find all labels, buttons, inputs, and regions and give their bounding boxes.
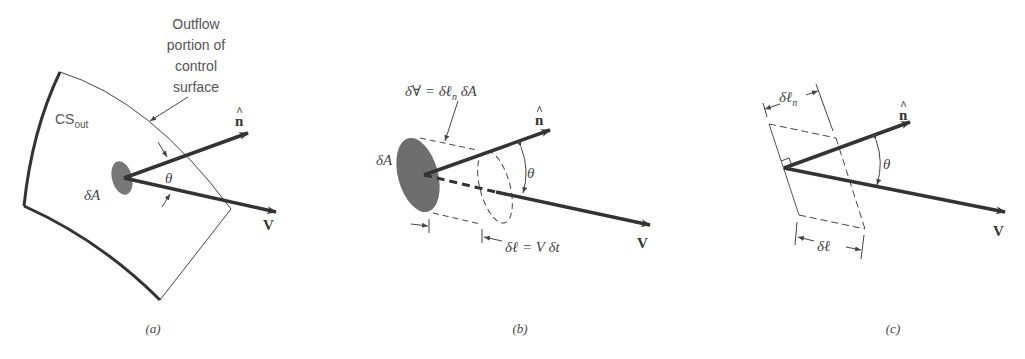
length-label: δℓ xyxy=(817,238,830,254)
volume-leader-line xyxy=(445,101,458,141)
length-equation-label: δℓ = V δt xyxy=(505,239,560,255)
angle-arc xyxy=(521,147,526,193)
angle-tick-bottom xyxy=(162,194,170,207)
angle-label: θ xyxy=(527,165,535,181)
dim-ext-bottom-left xyxy=(795,222,797,245)
dim-arrow-top-left xyxy=(765,104,780,109)
velocity-label: V xyxy=(993,223,1004,239)
panel-b: δ∀ = δℓn δA δA θ δℓ = V δt n ^ V (b) xyxy=(376,83,650,336)
callout-line-3: control xyxy=(175,58,217,74)
normal-hat: ^ xyxy=(536,103,543,117)
velocity-vector-arrow xyxy=(784,168,1005,212)
callout-line-2: portion of xyxy=(167,37,225,53)
dim-arrow-right xyxy=(484,237,502,241)
parallelogram-bottom-dashed xyxy=(799,215,865,229)
volume-equation-label: δ∀ = δℓn δA xyxy=(405,83,478,102)
normal-length-label: δℓn xyxy=(779,89,797,108)
panel-a-caption: (a) xyxy=(145,321,160,336)
velocity-vector-arrow xyxy=(124,178,276,212)
area-element-patch xyxy=(389,133,447,217)
angle-label: θ xyxy=(883,156,891,172)
cylinder-top-edge xyxy=(420,138,477,150)
cylinder-bottom-edge xyxy=(433,213,480,224)
dim-arrow-bottom-right xyxy=(846,247,861,250)
dim-arrow-bottom-left xyxy=(798,237,814,241)
area-label: δA xyxy=(376,152,393,168)
control-surface-thick-left-edge xyxy=(24,72,60,206)
panel-c-caption: (c) xyxy=(886,321,900,336)
callout-line-4: surface xyxy=(173,79,219,95)
panel-a: Outflow portion of control surface CSout… xyxy=(24,16,276,336)
normal-hat: ^ xyxy=(900,98,907,112)
normal-vector-arrow xyxy=(124,133,248,178)
angle-arc xyxy=(876,140,880,185)
cs-out-label: CSout xyxy=(55,111,89,130)
panel-b-caption: (b) xyxy=(512,321,527,336)
normal-hat: ^ xyxy=(236,104,243,118)
panel-c: δℓn δℓ θ n ^ V (c) xyxy=(763,84,1005,336)
velocity-label: V xyxy=(263,217,274,233)
control-surface-right-edge xyxy=(160,209,231,300)
dim-ext-top-left xyxy=(763,103,767,117)
velocity-vector-arrow xyxy=(496,192,650,225)
control-surface-diagram: Outflow portion of control surface CSout… xyxy=(0,0,1025,359)
callout-line-1: Outflow xyxy=(172,16,220,32)
dim-ext-top-right xyxy=(816,84,833,131)
velocity-label: V xyxy=(637,235,648,251)
area-label: δA xyxy=(84,187,101,203)
dim-ext-bottom-right xyxy=(861,235,864,259)
dim-arrow-left xyxy=(411,224,428,226)
angle-label: θ xyxy=(165,170,173,186)
callout-leader-line xyxy=(150,97,188,121)
control-surface-thick-bottom-edge xyxy=(24,206,160,300)
normal-vector-arrow xyxy=(784,122,910,168)
parallelogram-top-dashed xyxy=(769,124,836,138)
dim-arrow-top-right xyxy=(806,91,818,95)
angle-tick-top xyxy=(158,142,167,157)
